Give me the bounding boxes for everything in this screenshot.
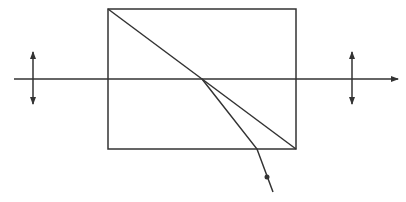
diagram-canvas [0,0,406,202]
prism-diagram [0,0,406,202]
deflected-ray [202,79,273,192]
deflected-ray-dot-icon [265,175,270,180]
